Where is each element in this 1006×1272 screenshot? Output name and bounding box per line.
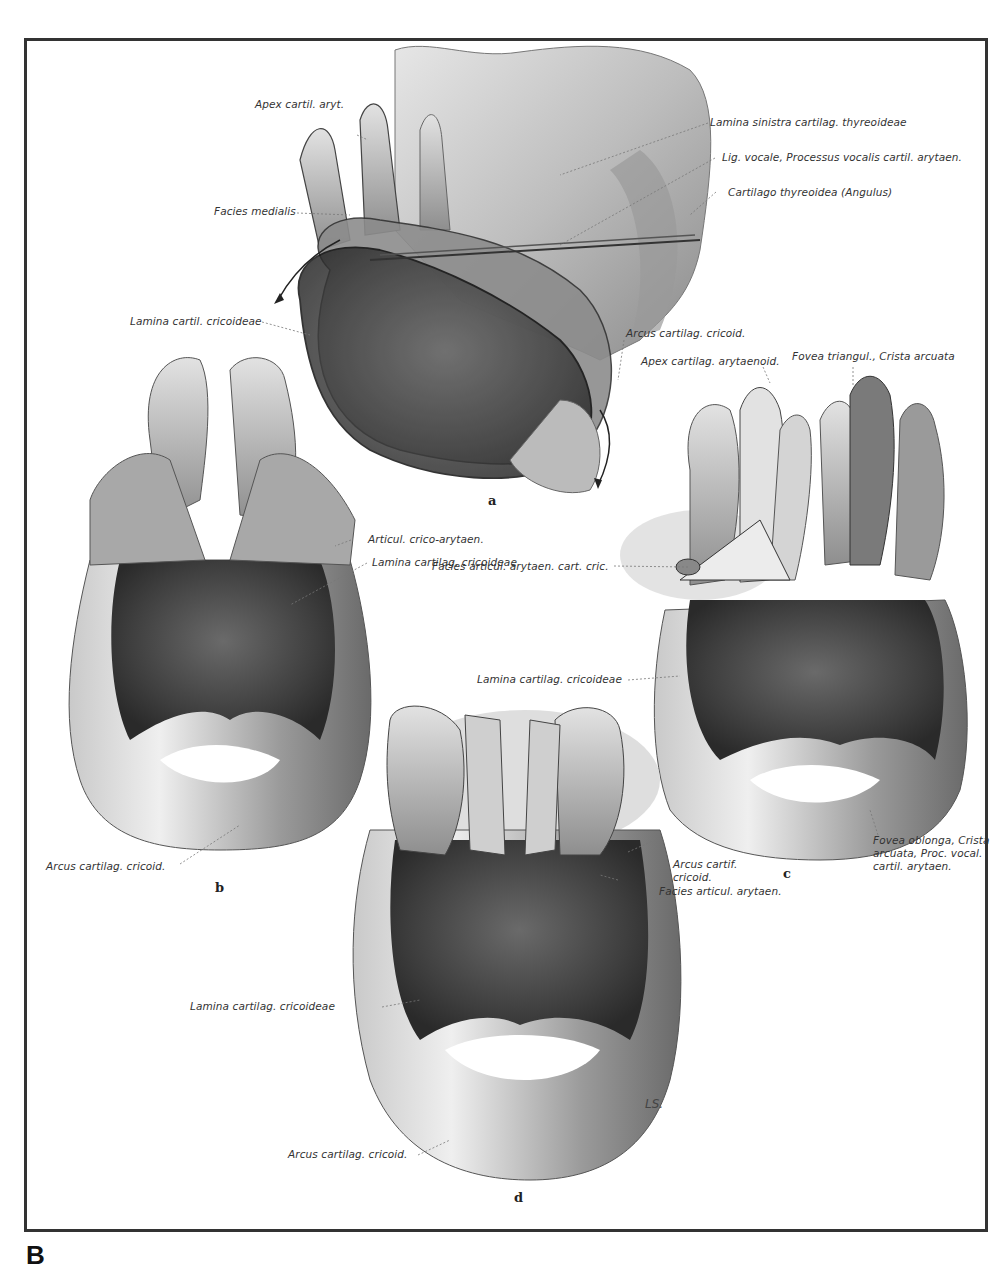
label-lamina-sinistra-cartilag-thyreoideae: Lamina sinistra cartilag. thyreoideae — [710, 116, 907, 129]
label-arcus-cartilag-cricoid-d: Arcus cartilag. cricoid. — [288, 1148, 408, 1161]
subfigure-c-drawing — [620, 376, 967, 860]
subfigure-d-drawing — [353, 706, 681, 1180]
label-articul-crico-arytaen: Articul. crico-arytaen. — [368, 533, 484, 546]
label-arcus-cartilag-cricoid-a: Arcus cartilag. cricoid. — [626, 327, 746, 340]
subfigure-a-drawing — [274, 46, 711, 492]
label-lig-vocale-processus-vocalis: Lig. vocale, Processus vocalis cartil. a… — [722, 151, 962, 164]
label-arcus-cartif-cricoid: Arcus cartif. cricoid. — [673, 858, 737, 884]
label-arcus-cartilag-cricoid-b: Arcus cartilag. cricoid. — [46, 860, 166, 873]
label-apex-cartilag-arytaenoid: Apex cartilag. arytaenoid. — [641, 355, 780, 368]
artist-signature: LS. — [645, 1097, 663, 1111]
subfigure-label-c: c — [783, 866, 791, 881]
label-facies-articul-arytaen-cart-cric: Facies articul. arytaen. cart. cric. — [432, 560, 609, 573]
subfigure-label-b: b — [215, 880, 224, 895]
label-lamina-cartilag-cricoideae-c: Lamina cartilag. cricoideae — [477, 673, 622, 686]
label-facies-articul-arytaen: Facies articul. arytaen. — [659, 885, 782, 898]
subfigure-label-d: d — [514, 1190, 523, 1205]
subfigure-b-drawing — [69, 358, 371, 850]
label-lamina-cartil-cricoideae: Lamina cartil. cricoideae — [130, 315, 262, 328]
label-fovea-oblonga-crista-arcuata: Fovea oblonga, Crista arcuata, Proc. voc… — [873, 834, 989, 873]
label-facies-medialis: Facies medialis — [214, 205, 296, 218]
panel-letter: B — [26, 1240, 45, 1271]
label-lamina-cartilag-cricoideae-d: Lamina cartilag. cricoideae — [190, 1000, 335, 1013]
label-fovea-triangul-crista-arcuata: Fovea triangul., Crista arcuata — [792, 350, 955, 363]
label-apex-cartil-aryt: Apex cartil. aryt. — [255, 98, 344, 111]
label-cartilago-thyreoidea-angulus: Cartilago thyreoidea (Angulus) — [728, 186, 892, 199]
subfigure-label-a: a — [488, 493, 496, 508]
